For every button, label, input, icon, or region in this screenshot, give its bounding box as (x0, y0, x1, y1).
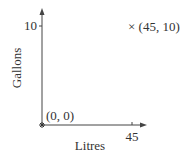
point-label: × (45, 10) (128, 19, 180, 34)
origin-label: (0, 0) (46, 108, 74, 123)
chart: 10 45 (0, 0) × (45, 10) Litres Gallons (0, 0, 183, 158)
y-tick-label: 10 (24, 18, 37, 33)
x-axis-arrow-icon (140, 123, 147, 128)
x-tick-label: 45 (126, 129, 139, 144)
y-axis-arrow-icon (40, 8, 45, 15)
x-axis-label: Litres (75, 138, 105, 153)
origin-asterisk-icon (39, 122, 45, 128)
y-axis-label: Gallons (9, 48, 24, 88)
